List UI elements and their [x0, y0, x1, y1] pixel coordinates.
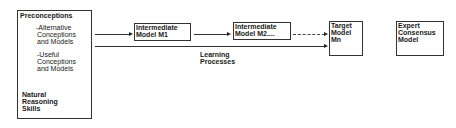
- preconceptions-title: Preconceptions: [20, 12, 73, 20]
- alternative-conceptions-line3: and Models: [37, 38, 73, 46]
- natural-reasoning-line3: Skills: [22, 105, 40, 113]
- arrowhead-icon: [324, 44, 328, 48]
- arrowhead-icon: [129, 32, 133, 36]
- arrow-preconceptions-to-m1: [95, 34, 130, 35]
- target-model-line3: Mn: [331, 36, 341, 44]
- useful-conceptions-line3: and Models: [37, 65, 73, 73]
- intermediate-m1-line2: Model M1: [136, 31, 168, 39]
- expert-model-line3: Model: [398, 36, 418, 44]
- arrowhead-icon: [227, 32, 231, 36]
- arrowhead-icon: [324, 32, 328, 36]
- arrow-m1-to-m2: [194, 34, 228, 35]
- intermediate-m2-line2: Model M2....: [235, 30, 275, 38]
- arrow-m2-to-target-dashed: [293, 34, 325, 35]
- arrow-preconceptions-to-target: [95, 46, 325, 47]
- learning-processes-label-line2: Processes: [200, 58, 235, 66]
